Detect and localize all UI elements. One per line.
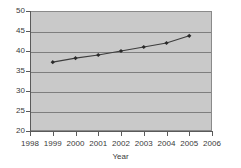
series-data-point — [164, 41, 168, 45]
data-series-line — [0, 0, 241, 168]
y-axis-tick — [26, 111, 31, 112]
y-axis-tick — [26, 11, 31, 12]
y-axis-tick — [26, 51, 31, 52]
series-data-point — [142, 45, 146, 49]
series-data-point — [119, 49, 123, 53]
x-axis-tick — [98, 132, 99, 136]
series-data-point — [96, 53, 100, 57]
x-axis-tick — [144, 132, 145, 136]
x-axis-tick — [189, 132, 190, 136]
x-axis-tick — [167, 132, 168, 136]
x-axis-tick — [53, 132, 54, 136]
series-data-point — [73, 56, 77, 60]
y-axis-tick — [26, 31, 31, 32]
x-axis-tick — [30, 132, 31, 136]
x-axis-tick — [76, 132, 77, 136]
y-axis-tick — [26, 71, 31, 72]
x-axis-tick — [212, 132, 213, 136]
series-data-point — [51, 60, 55, 64]
series-data-point — [187, 34, 191, 38]
x-axis-title: Year — [0, 152, 241, 161]
y-axis-tick — [26, 91, 31, 92]
x-axis-tick — [121, 132, 122, 136]
line-chart-figure: 20253035404550 1998199920002001200220032… — [0, 0, 241, 168]
